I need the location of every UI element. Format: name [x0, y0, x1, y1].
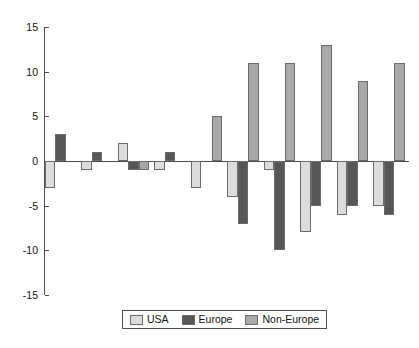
bar-non-europe-group-5: [212, 116, 223, 161]
bar-europe-group-4: [165, 152, 176, 161]
chart-figure: 151050-5-10-15 USA Europe Non-Europe: [0, 0, 419, 348]
legend-swatch-non-europe: [245, 315, 258, 325]
y-tick-label: 5: [4, 111, 38, 122]
y-tick-label: 10: [4, 67, 38, 78]
y-tick-label: 15: [4, 22, 38, 33]
bar-usa-group-1: [45, 161, 56, 188]
bar-europe-group-8: [311, 161, 322, 206]
bar-usa-group-9: [337, 161, 348, 215]
bar-non-europe-group-9: [358, 81, 369, 161]
y-tick-mark: [45, 295, 49, 296]
bar-usa-group-10: [373, 161, 384, 206]
bar-non-europe-group-3: [139, 161, 150, 170]
bar-usa-group-7: [264, 161, 275, 170]
legend-label-usa: USA: [147, 314, 169, 325]
legend-entry-europe: Europe: [182, 314, 233, 325]
legend-entry-non-europe: Non-Europe: [245, 314, 319, 325]
bar-europe-group-6: [238, 161, 249, 224]
bar-usa-group-3: [118, 143, 129, 161]
bar-non-europe-group-8: [321, 45, 332, 161]
legend-swatch-usa: [130, 315, 143, 325]
bar-usa-group-4: [154, 161, 165, 170]
bar-europe-group-10: [384, 161, 395, 215]
y-tick-label: -10: [4, 245, 38, 256]
legend-label-europe: Europe: [199, 314, 233, 325]
bars-layer: [44, 27, 409, 295]
y-tick-label: 0: [4, 156, 38, 167]
bar-non-europe-group-6: [248, 63, 259, 161]
legend-swatch-europe: [182, 315, 195, 325]
bar-europe-group-2: [92, 152, 103, 161]
legend-entry-usa: USA: [130, 314, 169, 325]
bar-non-europe-group-7: [285, 63, 296, 161]
bar-europe-group-1: [55, 134, 66, 161]
bar-usa-group-2: [81, 161, 92, 170]
bar-usa-group-6: [227, 161, 238, 197]
bar-usa-group-5: [191, 161, 202, 188]
y-tick-label: -15: [4, 290, 38, 301]
bar-europe-group-7: [274, 161, 285, 250]
bar-usa-group-8: [300, 161, 311, 232]
bar-non-europe-group-10: [394, 63, 405, 161]
y-tick-label: -5: [4, 201, 38, 212]
bar-europe-group-3: [128, 161, 139, 170]
legend-label-non-europe: Non-Europe: [262, 314, 319, 325]
bar-europe-group-9: [347, 161, 358, 206]
chart-legend: USA Europe Non-Europe: [122, 310, 327, 329]
